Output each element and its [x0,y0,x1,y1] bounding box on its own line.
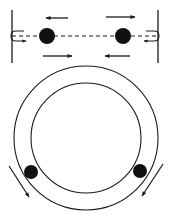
diagram-canvas [0,0,172,219]
inner-ring-circle [31,83,141,193]
ring-right-ball [133,164,147,178]
outer-ring-circle [14,66,158,210]
top-panel-walls-diagram [11,10,159,63]
right-ball [115,28,131,44]
bottom-panel-ring-diagram [9,66,163,210]
ring-left-ball [24,165,38,179]
left-ball [39,28,55,44]
